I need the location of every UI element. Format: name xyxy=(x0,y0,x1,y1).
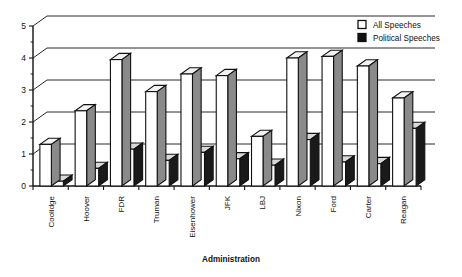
x-category-label: FDR xyxy=(117,196,126,213)
legend-swatch-political-speeches xyxy=(358,34,366,42)
bar-fdr-all-speeches xyxy=(110,53,130,186)
y-tick-label: 5 xyxy=(21,21,26,31)
bars xyxy=(40,50,425,186)
bar-reagan-all-speeches xyxy=(393,92,413,186)
legend-label-all-speeches: All Speeches xyxy=(373,21,421,30)
y-axis-tick-labels: 012345 xyxy=(21,21,26,191)
x-category-label: Reagan xyxy=(399,196,408,224)
x-axis-category-labels: CoolidgeHooverFDRTrumanEisenhowerJFKLBJN… xyxy=(47,195,409,237)
legend-swatch-all-speeches xyxy=(358,21,366,29)
legend: All Speeches Political Speeches xyxy=(358,21,440,43)
y-tick-label: 1 xyxy=(21,149,26,159)
bar-jfk-all-speeches xyxy=(216,69,236,186)
x-category-label: Coolidge xyxy=(47,195,56,227)
bar-nixon-all-speeches xyxy=(287,52,307,186)
bar-truman-all-speeches xyxy=(146,85,166,186)
y-tick-label: 3 xyxy=(21,85,26,95)
x-category-label: LBJ xyxy=(258,196,267,210)
bar-ford-all-speeches xyxy=(322,50,342,186)
y-tick-label: 2 xyxy=(21,117,26,127)
y-tick-label: 0 xyxy=(21,181,26,191)
x-category-label: Ford xyxy=(329,196,338,212)
x-category-label: JFK xyxy=(223,195,232,210)
legend-label-political-speeches: Political Speeches xyxy=(373,34,440,43)
x-category-label: Eisenhower xyxy=(188,196,197,238)
bar-lbj-all-speeches xyxy=(252,130,272,186)
y-tick-label: 4 xyxy=(21,53,26,63)
bar-hoover-all-speeches xyxy=(75,105,95,186)
x-category-label: Nixon xyxy=(294,196,303,216)
bar-chart: 012345 CoolidgeHooverFDRTrumanEisenhower… xyxy=(0,0,462,277)
chart-container: 012345 CoolidgeHooverFDRTrumanEisenhower… xyxy=(0,0,462,277)
x-category-label: Hoover xyxy=(82,196,91,222)
x-category-label: Truman xyxy=(152,196,161,223)
bar-eisenhower-all-speeches xyxy=(181,68,201,186)
bar-carter-all-speeches xyxy=(357,60,377,186)
x-axis-title: Administration xyxy=(202,255,260,264)
bar-coolidge-all-speeches xyxy=(40,138,60,186)
x-category-label: Carter xyxy=(364,196,373,219)
